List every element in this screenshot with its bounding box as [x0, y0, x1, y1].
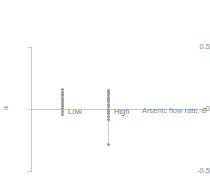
y-tick-label-upper: 0.5 [184, 43, 210, 51]
y-tick-mark-zero [28, 109, 32, 110]
group-label-high: High [114, 108, 129, 116]
y-tick-label-lower: -0.5 [184, 167, 210, 175]
data-point [107, 143, 110, 146]
data-point [107, 118, 110, 121]
residual-plot-figure: 0.5 0 -0.5 e Arsenic flow rate, B Low Hi… [0, 0, 210, 187]
y-tick-mark-upper [28, 47, 32, 48]
y-axis-title: e [4, 104, 8, 112]
group-low: Low [62, 0, 63, 187]
x-axis-title: Arsenic flow rate, B [142, 107, 207, 115]
data-point [61, 113, 64, 116]
y-tick-mark-lower [28, 171, 32, 172]
plot-area: 0.5 0 -0.5 e Arsenic flow rate, B Low Hi… [0, 0, 210, 187]
group-label-low: Low [68, 108, 82, 116]
group-high: High [108, 0, 109, 187]
x-axis-title-symbol: B [202, 106, 207, 115]
x-axis-title-text: Arsenic flow rate, [142, 106, 200, 115]
